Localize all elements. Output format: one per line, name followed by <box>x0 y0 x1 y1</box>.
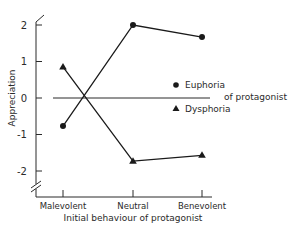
x-axis-title: Initial behaviour of protagonist <box>64 213 203 223</box>
y-tick-label: 0 <box>21 93 27 104</box>
data-point-euphoria <box>130 22 136 28</box>
legend-euphoria-label: Euphoria <box>185 80 225 90</box>
legend-euphoria-marker <box>173 82 179 88</box>
x-tick-label: Neutral <box>117 201 148 211</box>
data-point-dysphoria <box>59 63 67 70</box>
series-layer <box>59 22 206 164</box>
x-tick-label: Malevolent <box>40 201 87 211</box>
y-axis-title: Appreciation <box>7 70 17 127</box>
chart: 210-1-2 MalevolentNeutralBenevolent Appr… <box>0 0 302 232</box>
y-axis-top-flourish <box>36 15 44 22</box>
y-tick-label: -2 <box>17 166 27 177</box>
data-point-euphoria <box>60 123 66 129</box>
legend-group-label: of protagonist <box>224 92 287 102</box>
x-tick-label: Benevolent <box>178 201 227 211</box>
y-ticks: 210-1-2 <box>17 20 42 177</box>
x-ticks: MalevolentNeutralBenevolent <box>40 190 227 211</box>
legend: Euphoria of protagonist Dysphoria <box>173 80 288 114</box>
data-point-euphoria <box>199 34 205 40</box>
y-tick-label: 1 <box>21 56 27 67</box>
legend-dysphoria-label: Dysphoria <box>185 104 231 114</box>
series-line-dysphoria <box>63 67 202 161</box>
legend-dysphoria-marker <box>173 105 180 111</box>
y-tick-label: 2 <box>21 20 27 31</box>
series-line-euphoria <box>63 25 202 126</box>
data-point-dysphoria <box>198 151 206 158</box>
y-tick-label: -1 <box>17 129 27 140</box>
